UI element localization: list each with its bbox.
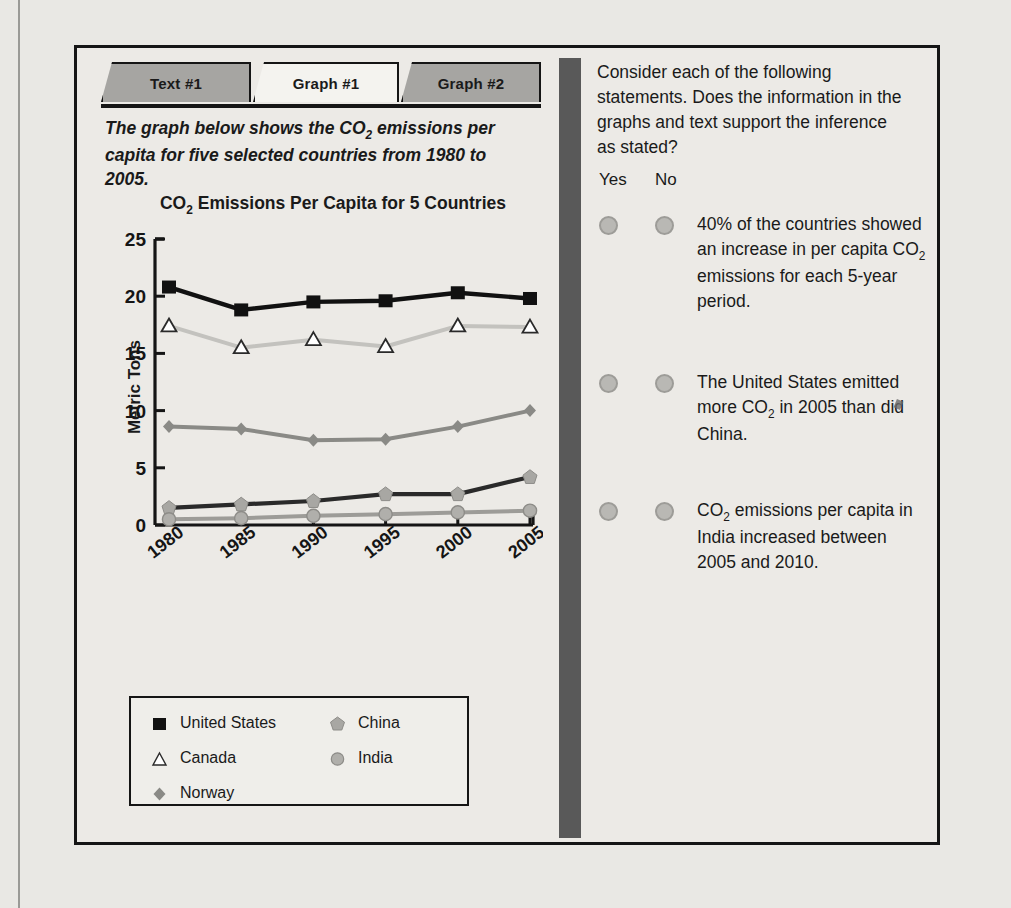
svg-text:10: 10 <box>125 401 146 422</box>
stimulus-panel: Text #1 Graph #1 Graph #2 The graph belo… <box>77 48 557 842</box>
statement-subscript: 2 <box>919 248 926 262</box>
chart-title-part-2: Emissions Per Capita for 5 Countries <box>193 193 506 213</box>
radio-yes[interactable] <box>599 374 618 393</box>
statement-row: The United States emitted more CO2 in 20… <box>597 370 927 447</box>
prompt-part-1: The graph below shows the CO <box>105 118 366 138</box>
statement-subscript: 2 <box>768 406 775 420</box>
pentagon-marker-icon <box>329 715 346 732</box>
triangle-marker-icon <box>151 750 168 767</box>
svg-text:15: 15 <box>125 343 147 364</box>
legend-label: Canada <box>180 749 236 767</box>
tab-graph-2[interactable]: Graph #2 <box>401 62 541 102</box>
chart-block: CO2 Emissions Per Capita for 5 Countries… <box>93 193 543 643</box>
tab-label: Graph #1 <box>293 75 360 92</box>
page-gutter-rule <box>18 0 20 908</box>
legend-item-india: India <box>329 749 393 767</box>
legend-item-united-states: United States <box>151 714 276 732</box>
chart-title-part-1: CO <box>160 193 186 213</box>
radio-no[interactable] <box>655 374 674 393</box>
no-column-header: No <box>655 170 677 190</box>
response-panel: Consider each of the following statement… <box>597 60 927 840</box>
radio-no[interactable] <box>655 216 674 235</box>
statement-text: The United States emitted more CO2 in 20… <box>697 370 927 447</box>
diamond-marker-icon <box>151 785 168 802</box>
prompt-part-2: emissions per <box>372 118 495 138</box>
radio-no[interactable] <box>655 502 674 521</box>
chart-legend: United States China Canada India <box>129 696 469 806</box>
prompt-part-3: capita for five selected countries from … <box>105 145 486 189</box>
chart-title-subscript: 2 <box>186 203 193 217</box>
statement-subscript: 2 <box>723 510 730 524</box>
radio-yes[interactable] <box>599 216 618 235</box>
svg-text:25: 25 <box>125 229 147 250</box>
legend-item-canada: Canada <box>151 749 236 767</box>
plot-area: Metric Tons 0510152025198019851990199520… <box>93 227 543 627</box>
statement-text: 40% of the countries showed an increase … <box>697 212 927 314</box>
stimulus-prompt: The graph below shows the CO2 emissions … <box>105 116 525 191</box>
question-text: Consider each of the following statement… <box>597 60 909 159</box>
svg-text:20: 20 <box>125 286 146 307</box>
tab-label: Graph #2 <box>438 75 505 92</box>
chart-title: CO2 Emissions Per Capita for 5 Countries <box>123 193 543 217</box>
statement-part-1: CO <box>697 500 723 520</box>
svg-text:5: 5 <box>135 458 146 479</box>
legend-item-china: China <box>329 714 400 732</box>
legend-item-norway: Norway <box>151 784 234 802</box>
statement-row: 40% of the countries showed an increase … <box>597 212 927 314</box>
square-marker-icon <box>151 715 168 732</box>
legend-label: India <box>358 749 393 767</box>
tab-underline <box>101 104 541 108</box>
line-chart-svg: 0510152025198019851990199520002005 <box>93 227 543 627</box>
tab-graph-1[interactable]: Graph #1 <box>253 62 399 102</box>
statement-text: CO2 emissions per capita in India increa… <box>697 498 927 575</box>
svg-text:1985: 1985 <box>216 522 260 562</box>
svg-text:1990: 1990 <box>288 522 332 562</box>
svg-text:1980: 1980 <box>143 522 187 562</box>
statement-part-2: emissions per capita in India increased … <box>697 500 913 572</box>
tab-text-1[interactable]: Text #1 <box>101 62 251 102</box>
svg-text:2000: 2000 <box>432 522 476 562</box>
statement-part-2: emissions for each 5-year period. <box>697 266 897 311</box>
radio-yes[interactable] <box>599 502 618 521</box>
legend-label: China <box>358 714 400 732</box>
statement-part-1: 40% of the countries showed an increase … <box>697 214 922 259</box>
svg-text:2005: 2005 <box>504 522 543 562</box>
circle-marker-icon <box>329 750 346 767</box>
yes-column-header: Yes <box>599 170 627 190</box>
panel-divider <box>559 58 581 838</box>
legend-label: Norway <box>180 784 234 802</box>
tab-label: Text #1 <box>150 75 202 92</box>
tab-strip: Text #1 Graph #1 Graph #2 <box>101 62 541 106</box>
legend-label: United States <box>180 714 276 732</box>
svg-text:0: 0 <box>135 515 146 536</box>
svg-text:1995: 1995 <box>360 522 404 562</box>
question-frame: Text #1 Graph #1 Graph #2 The graph belo… <box>74 45 940 845</box>
statement-row: CO2 emissions per capita in India increa… <box>597 498 927 575</box>
